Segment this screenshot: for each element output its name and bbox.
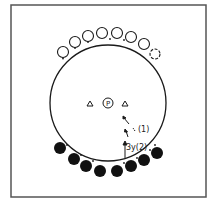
open-circle: [112, 28, 123, 39]
open-circle: [139, 39, 150, 50]
filled-circle: [94, 165, 106, 177]
arrow-label-2: 3y(2): [126, 143, 147, 152]
open-circle: [70, 37, 81, 48]
dashed-arrow: [133, 128, 135, 131]
triangle-icon-right: [122, 101, 128, 106]
filled-circle: [111, 165, 123, 177]
open-circle: [126, 32, 137, 43]
filled-circle: [54, 142, 66, 154]
filled-circle: [68, 153, 80, 165]
center-label: P: [106, 100, 110, 108]
filled-circle: [151, 147, 163, 159]
filled-circle: [138, 154, 150, 166]
open-circles: [58, 28, 161, 60]
diagram-canvas: P (1) 3y(2): [0, 0, 216, 202]
center-group: P: [87, 98, 128, 108]
filled-circle: [80, 160, 92, 172]
open-circle: [83, 31, 94, 42]
open-circle: [58, 47, 69, 58]
filled-circle: [125, 160, 137, 172]
open-circle: [97, 28, 108, 39]
open-circle-faded: [150, 49, 160, 59]
arrow-label-1: (1): [138, 125, 149, 134]
triangle-icon-left: [87, 101, 93, 106]
